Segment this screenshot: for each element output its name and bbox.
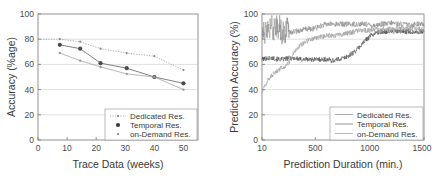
right-ytick-100: 100 xyxy=(244,9,258,19)
right-y-axis-title: Prediction Accuracy (%) xyxy=(228,21,240,132)
left-point-temporal xyxy=(98,61,102,65)
left-y-axis-title: Accuracy (%age) xyxy=(5,37,17,117)
left-point-dedicated xyxy=(126,52,128,54)
left-ytick-20: 20 xyxy=(25,110,35,120)
right-legend-label-dedicated: Dedicated Res. xyxy=(357,111,412,120)
ondemand-marker-icon xyxy=(117,133,119,135)
left-point-dedicated xyxy=(153,55,155,57)
left-point-ondemand xyxy=(79,59,81,61)
right-ytick-80: 80 xyxy=(249,34,259,44)
right-xtick-10: 10 xyxy=(257,143,267,153)
left-point-temporal xyxy=(58,43,62,47)
left-point-ondemand xyxy=(59,52,61,54)
left-legend-label-ondemand: on-Demand Res. xyxy=(130,130,190,139)
left-point-temporal xyxy=(181,81,185,85)
left-legend: Dedicated Res. Temporal Res. on-Demand R… xyxy=(105,109,197,140)
right-ytick-20: 20 xyxy=(249,110,259,120)
right-x-axis-title: Prediction Duration (min.) xyxy=(283,158,402,170)
left-point-ondemand xyxy=(182,88,184,90)
left-ytick-0: 0 xyxy=(29,135,34,145)
left-xtick-30: 30 xyxy=(121,143,131,153)
left-point-dedicated xyxy=(182,69,184,71)
dedicated-marker-icon xyxy=(117,115,119,117)
right-chart-svg: 100 80 60 40 20 0 10 500 1000 1500 xyxy=(224,0,447,182)
left-xtick-0: 0 xyxy=(36,143,41,153)
left-ytick-40: 40 xyxy=(25,85,35,95)
right-legend-label-ondemand: on-Demand Res. xyxy=(357,130,417,139)
right-legend-label-temporal: Temporal Res. xyxy=(357,120,409,129)
left-ytick-60: 60 xyxy=(25,59,35,69)
left-point-temporal xyxy=(78,47,82,51)
left-xtick-40: 40 xyxy=(150,143,160,153)
left-point-ondemand xyxy=(153,76,155,78)
left-chart-svg: 100 80 60 40 20 0 0 10 20 30 40 50 xyxy=(0,0,224,182)
left-point-ondemand xyxy=(99,66,101,68)
left-xtick-20: 20 xyxy=(91,143,101,153)
right-xtick-1000: 1000 xyxy=(360,143,379,153)
right-xtick-1500: 1500 xyxy=(413,143,432,153)
left-point-ondemand xyxy=(126,73,128,75)
left-point-temporal xyxy=(125,66,129,70)
left-xtick-50: 50 xyxy=(179,143,189,153)
left-ytick-80: 80 xyxy=(25,34,35,44)
chart-panel-right: 100 80 60 40 20 0 10 500 1000 1500 xyxy=(224,0,447,182)
left-xtick-10: 10 xyxy=(62,143,72,153)
left-ytick-100: 100 xyxy=(20,9,34,19)
left-x-axis-title: Trace Data (weeks) xyxy=(72,158,163,170)
left-legend-label-dedicated: Dedicated Res. xyxy=(130,112,185,121)
right-ytick-60: 60 xyxy=(249,59,259,69)
left-legend-label-temporal: Temporal Res. xyxy=(130,121,182,130)
chart-panel-left: 100 80 60 40 20 0 0 10 20 30 40 50 xyxy=(0,0,224,182)
right-legend: Dedicated Res. Temporal Res. on-Demand R… xyxy=(330,107,423,140)
temporal-marker-icon xyxy=(116,123,120,127)
right-ytick-40: 40 xyxy=(249,85,259,95)
right-xtick-500: 500 xyxy=(308,143,322,153)
figure-container: 100 80 60 40 20 0 0 10 20 30 40 50 xyxy=(0,0,447,182)
left-point-dedicated xyxy=(79,41,81,43)
left-point-dedicated xyxy=(99,48,101,50)
